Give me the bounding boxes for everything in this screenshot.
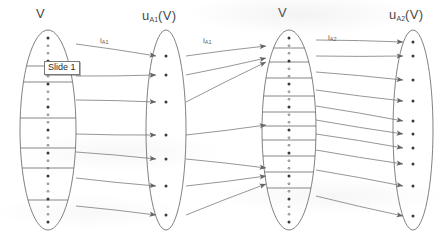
element-dot — [288, 137, 290, 139]
element-dot — [288, 37, 291, 40]
mapping-arrow — [76, 75, 156, 76]
set-set-ua1-v — [146, 30, 186, 230]
mapping-arrow — [316, 196, 403, 216]
element-dot — [288, 68, 290, 70]
mapping-arrow — [76, 152, 156, 159]
arrow-group-ia2 — [316, 40, 403, 216]
element-dot — [165, 158, 168, 161]
element-dot — [412, 100, 415, 103]
element-dot — [412, 147, 415, 150]
element-dot — [47, 98, 49, 100]
element-dot — [288, 175, 291, 178]
element-dot — [165, 185, 168, 188]
element-dot — [47, 137, 49, 139]
set-label-v-right: V — [278, 5, 287, 20]
mapping-arrow — [186, 58, 266, 75]
element-dot — [288, 106, 291, 109]
mapping-arrow — [316, 72, 403, 80]
element-dot — [288, 83, 291, 86]
slide-tooltip-label: Slide 1 — [48, 62, 76, 72]
element-dot — [47, 91, 49, 93]
element-dot — [47, 221, 50, 224]
element-dot — [288, 114, 290, 116]
element-dot — [288, 75, 290, 77]
arrow-group-ia1-first — [76, 44, 156, 215]
element-dot — [288, 190, 290, 192]
set-label-ua2-v: uA2(V) — [389, 7, 423, 22]
slide-tooltip[interactable]: Slide 1 — [44, 61, 80, 75]
element-dot — [288, 152, 291, 155]
element-dot — [165, 74, 168, 77]
mapping-arrow — [76, 134, 156, 135]
element-dot — [47, 114, 49, 116]
element-dot — [47, 175, 50, 178]
element-dot — [288, 98, 290, 100]
element-dot — [47, 152, 50, 155]
element-dot — [288, 144, 290, 146]
element-dot — [47, 144, 49, 146]
element-dot — [288, 121, 290, 123]
arrow-layer — [76, 40, 403, 216]
element-dot — [165, 214, 168, 217]
mapping-arrow — [186, 176, 266, 186]
mapping-arrow — [76, 178, 156, 186]
element-dot — [165, 134, 168, 137]
element-dot — [47, 75, 49, 77]
mapping-arrow — [186, 125, 266, 135]
element-dot — [412, 41, 415, 44]
element-dot — [47, 83, 50, 86]
mapping-arrow — [316, 150, 403, 164]
set-set-ua2-v — [393, 30, 433, 230]
element-dot — [288, 91, 290, 93]
element-dot — [47, 106, 50, 109]
element-dot — [412, 55, 415, 58]
mapping-arrow — [316, 170, 403, 186]
mapping-arrow — [186, 62, 266, 102]
element-dot — [47, 45, 49, 47]
element-dot — [288, 221, 291, 224]
mapping-arrow — [186, 159, 266, 168]
element-dot — [47, 129, 50, 132]
element-dot — [412, 215, 415, 218]
mapping-arrow — [186, 46, 266, 56]
map-label-ia2: iA2 — [328, 33, 337, 42]
mapping-arrow — [76, 206, 156, 215]
set-ellipse — [146, 30, 186, 230]
element-dot — [412, 120, 415, 123]
map-label-ia1-second: iA1 — [203, 36, 212, 45]
element-dot — [47, 37, 50, 40]
element-dot — [165, 55, 168, 58]
element-dot — [47, 183, 49, 185]
mapping-arrow — [316, 134, 403, 148]
set-label-ua1-v: uA1(V) — [142, 8, 176, 23]
mapping-arrow — [76, 100, 156, 102]
element-dot — [47, 190, 49, 192]
set-set-v-left — [20, 30, 76, 230]
element-dot — [288, 160, 290, 162]
set-set-v-right — [262, 30, 316, 230]
diagram-canvas — [0, 0, 445, 240]
element-dot — [288, 198, 291, 201]
element-dot — [412, 185, 415, 188]
element-dot — [47, 206, 49, 208]
element-dot — [288, 213, 290, 215]
map-label-ia1-first: iA1 — [100, 36, 109, 45]
element-dot — [47, 213, 49, 215]
element-dot — [288, 45, 290, 47]
element-dot — [288, 52, 290, 54]
element-dot — [47, 160, 49, 162]
mapping-arrow — [316, 90, 403, 101]
element-dot — [165, 101, 168, 104]
element-dot — [412, 79, 415, 82]
element-dot — [412, 133, 415, 136]
set-label-v-left: V — [36, 6, 45, 21]
element-dot — [47, 121, 49, 123]
set-ellipse — [393, 30, 433, 230]
arrow-group-ia1-second — [186, 46, 266, 215]
element-dot — [412, 163, 415, 166]
element-dot — [288, 206, 290, 208]
element-dot — [47, 198, 50, 201]
mapping-arrow — [316, 106, 403, 121]
mapping-arrow — [186, 184, 266, 215]
element-dot — [288, 129, 291, 132]
